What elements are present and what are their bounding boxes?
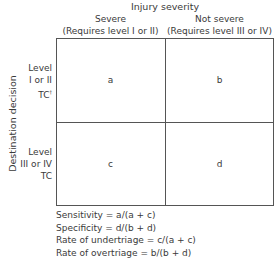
formula-overtriage: Rate of overtriage = b/(b + d) <box>56 247 196 259</box>
cell-a: a <box>56 38 165 122</box>
cell-b: b <box>165 38 274 122</box>
column-header-not-severe: Not severe (Requires level III or IV) <box>165 13 274 37</box>
footnote-marker: † <box>50 89 53 95</box>
formula-specificity: Specificity = d/(b + d) <box>56 222 196 235</box>
row-label-line: TC† <box>16 86 52 101</box>
column-axis-title: Injury severity <box>56 1 274 12</box>
column-sublabel: (Requires level III or IV) <box>165 25 274 37</box>
column-label: Severe <box>56 13 165 25</box>
column-sublabel: (Requires level I or II) <box>56 25 165 37</box>
row-label-line: Level <box>16 146 52 158</box>
cell-c: c <box>56 122 165 206</box>
column-header-severe: Severe (Requires level I or II) <box>56 13 165 37</box>
column-label: Not severe <box>165 13 274 25</box>
formula-undertriage: Rate of undertriage = c/(a + c) <box>56 234 196 247</box>
row-label-line: I or II <box>16 74 52 86</box>
row-label-text: TC <box>38 90 49 100</box>
row-label-line: III or IV <box>16 158 52 170</box>
cell-d: d <box>165 122 274 206</box>
row-label-line: Level <box>16 62 52 74</box>
formula-list: Sensitivity = a/(a + c) Specificity = d/… <box>56 209 196 259</box>
formula-sensitivity: Sensitivity = a/(a + c) <box>56 209 196 222</box>
row-label-line: TC <box>16 170 52 182</box>
row-header-level-1-2: Level I or II TC† <box>16 62 52 101</box>
row-header-level-3-4: Level III or IV TC <box>16 146 52 182</box>
